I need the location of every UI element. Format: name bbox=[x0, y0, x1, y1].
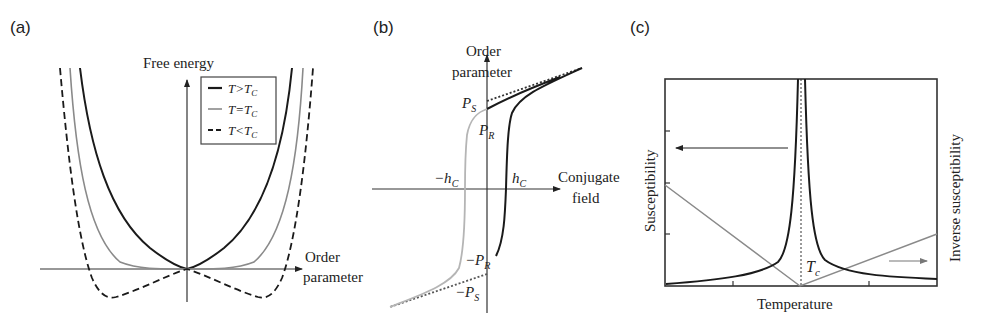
tc-label: Tc bbox=[806, 258, 820, 278]
panel-a-label: (a) bbox=[10, 18, 31, 37]
y-axis-label-line2: parameter bbox=[452, 64, 512, 80]
annotation-ps: PS bbox=[461, 95, 476, 114]
y-axis-label-line1: Order bbox=[466, 43, 501, 59]
figure: (a) Free energy Order parameter T>TC T=T… bbox=[0, 0, 1000, 331]
x-axis-label-line2: field bbox=[572, 190, 600, 206]
panel-b: (b) Order parameter Conjugate field PS P… bbox=[372, 18, 620, 313]
annotation-neg-hc: −hC bbox=[434, 170, 459, 189]
hysteresis-branch-dark bbox=[487, 68, 582, 256]
x-axis-label: Temperature bbox=[757, 296, 833, 312]
x-axis-label-line2: parameter bbox=[303, 269, 363, 285]
plot-frame bbox=[665, 79, 937, 286]
panel-c: (c) Susceptibility Inverse susceptibilit… bbox=[630, 18, 963, 312]
y-axis-label: Free energy bbox=[143, 55, 214, 71]
susceptibility-curve bbox=[666, 79, 937, 284]
y-axis-label-left: Susceptibility bbox=[642, 149, 658, 232]
annotation-hc: hC bbox=[512, 170, 527, 189]
x-axis-label-line1: Order bbox=[305, 249, 340, 265]
x-axis-label-line1: Conjugate bbox=[558, 169, 620, 185]
panel-a: (a) Free energy Order parameter T>TC T=T… bbox=[10, 18, 363, 302]
y-axis-label-right: Inverse susceptibility bbox=[947, 134, 963, 262]
annotation-pr: PR bbox=[478, 122, 494, 141]
panel-b-label: (b) bbox=[373, 18, 394, 37]
annotation-neg-ps: −PS bbox=[455, 284, 479, 303]
hysteresis-branch-light bbox=[390, 109, 487, 307]
legend: T>TC T=TC T<TC bbox=[201, 77, 276, 144]
panel-c-label: (c) bbox=[630, 18, 650, 37]
